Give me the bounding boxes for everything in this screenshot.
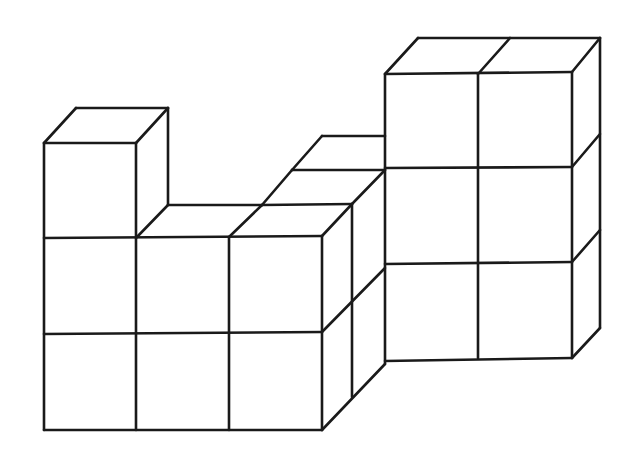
cube-edge: [262, 204, 352, 205]
cube-edge: [385, 38, 418, 74]
cube-edge: [292, 136, 322, 170]
cube-edge: [322, 364, 385, 430]
cube-edge: [136, 205, 168, 238]
cube-edge: [229, 205, 262, 237]
cube-edge: [262, 170, 292, 205]
isometric-cubes-drawing: [0, 0, 635, 455]
cube-edge: [44, 108, 76, 143]
cube-edge: [478, 38, 510, 74]
cube-edge: [136, 108, 168, 143]
cube-edge: [572, 134, 600, 167]
cube-edge: [385, 167, 572, 168]
cube-edge: [572, 328, 600, 358]
cube-edge: [572, 38, 600, 72]
cube-edge: [322, 268, 385, 332]
cube-edge: [322, 204, 352, 236]
cube-edge: [44, 332, 322, 334]
cube-edge: [572, 230, 600, 262]
cube-edge: [44, 236, 322, 238]
cube-structure-figure: [0, 0, 635, 455]
cube-edge: [385, 358, 572, 361]
cube-edge: [385, 262, 572, 264]
cube-edge: [352, 170, 385, 204]
